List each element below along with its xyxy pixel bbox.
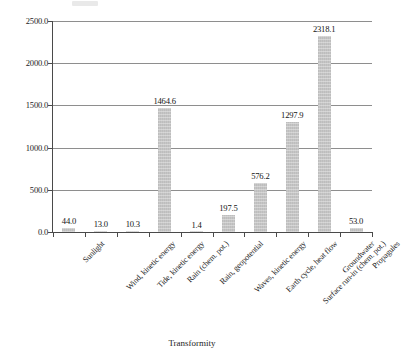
bar	[126, 231, 139, 232]
bar-value-label: 10.3	[105, 220, 161, 229]
gridline	[53, 21, 372, 22]
bar-value-label: 2318.1	[296, 25, 352, 34]
bar	[190, 231, 203, 232]
x-tick-mark	[149, 233, 150, 237]
x-tick-mark	[308, 233, 309, 237]
x-category-label: Wind, kinetic energy	[125, 240, 177, 292]
y-tick-label: 1000.0	[4, 144, 48, 153]
x-tick-mark	[85, 233, 86, 237]
x-axis-title: Transformity	[0, 338, 384, 348]
x-tick-mark	[117, 233, 118, 237]
bar-value-label: 1.4	[169, 221, 225, 230]
x-category-label: Sunlight	[82, 240, 107, 265]
x-tick-mark	[372, 233, 373, 237]
top-artifact	[72, 1, 98, 6]
x-tick-mark	[340, 233, 341, 237]
x-tick-mark	[244, 233, 245, 237]
x-tick-mark	[181, 233, 182, 237]
bar-value-label: 53.0	[328, 217, 384, 226]
x-tick-mark	[213, 233, 214, 237]
bar	[350, 228, 363, 232]
y-tick-label: 500.0	[4, 186, 48, 195]
bar-value-label: 1297.9	[264, 111, 320, 120]
y-tick-label: 1500.0	[4, 101, 48, 110]
x-tick-mark	[53, 233, 54, 237]
y-tick-label: 0.0	[4, 228, 48, 237]
y-tick-label: 2000.0	[4, 59, 48, 68]
bar-value-label: 197.5	[200, 204, 256, 213]
plot-area	[53, 21, 372, 232]
bar	[318, 36, 331, 232]
x-tick-mark	[276, 233, 277, 237]
bar	[94, 231, 107, 232]
bar	[158, 108, 171, 232]
bar-value-label: 576.2	[232, 172, 288, 181]
bar-value-label: 1464.6	[137, 97, 193, 106]
y-tick-label: 2500.0	[4, 17, 48, 26]
